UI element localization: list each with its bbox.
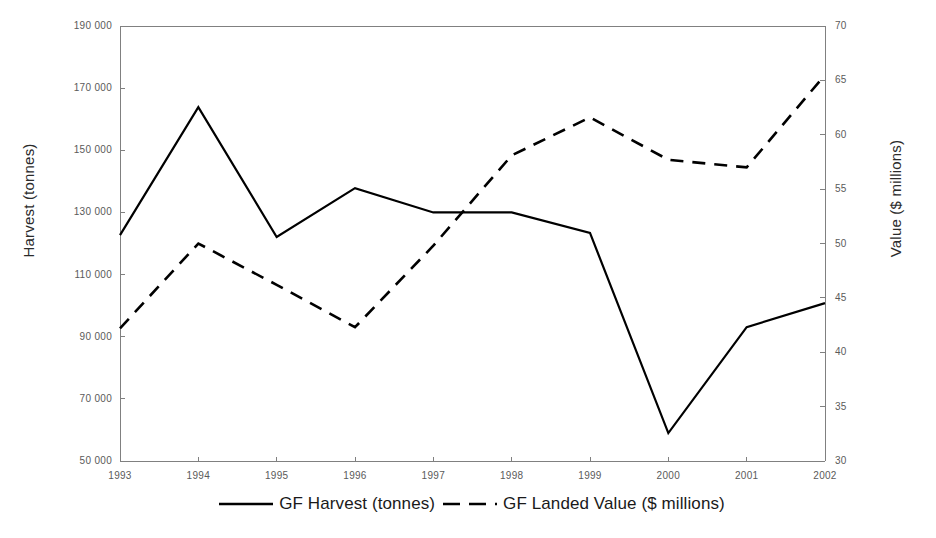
chart-figure: Harvest (tonnes) Value ($ millions) 190 … xyxy=(0,0,936,538)
series-lines xyxy=(120,75,825,433)
legend-swatch-solid-icon xyxy=(217,495,275,513)
tick-marks xyxy=(120,80,825,461)
axis-lines xyxy=(120,26,825,461)
legend-item-landed-value: GF Landed Value ($ millions) xyxy=(441,494,725,514)
legend-label-harvest: GF Harvest (tonnes) xyxy=(279,494,435,514)
plot-area xyxy=(0,0,936,538)
series-line-harvest xyxy=(120,107,825,433)
legend-item-harvest: GF Harvest (tonnes) xyxy=(217,494,435,514)
series-line-landed-value xyxy=(120,75,825,328)
legend-swatch-dashed-icon xyxy=(441,495,499,513)
chart-legend: GF Harvest (tonnes) GF Landed Value ($ m… xyxy=(118,494,824,514)
legend-label-landed-value: GF Landed Value ($ millions) xyxy=(503,494,725,514)
